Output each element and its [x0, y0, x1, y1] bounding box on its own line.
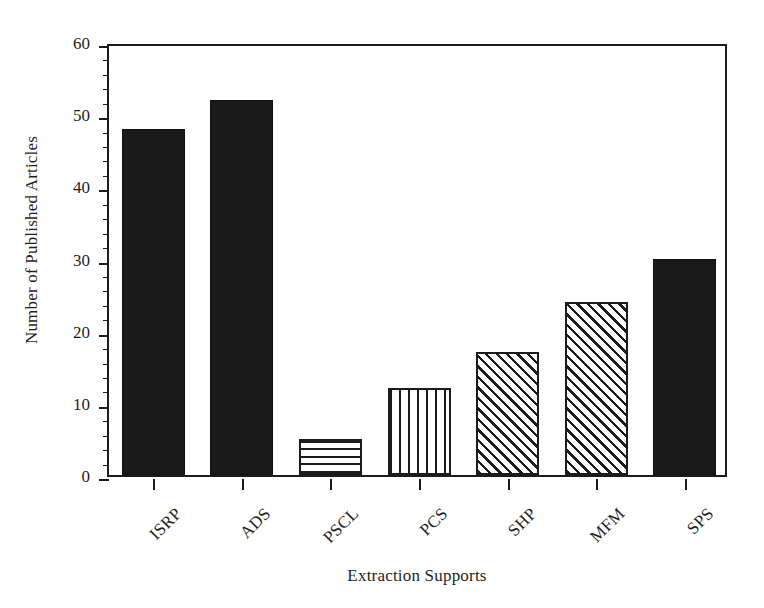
y-axis-title: Number of Published Articles [22, 80, 42, 400]
y-axis-minor-tick [103, 306, 109, 307]
bar-ads [210, 100, 273, 475]
y-axis-tick-labels: 0102030405060 [0, 0, 100, 608]
y-axis-tick-label: 60 [10, 34, 90, 54]
y-axis-tick-label: 0 [10, 467, 90, 487]
x-axis-tick [242, 479, 244, 490]
x-axis-tick [596, 479, 598, 490]
y-axis-minor-tick [103, 436, 109, 437]
y-axis-major-tick [99, 335, 109, 337]
y-axis-minor-tick [103, 349, 109, 350]
bar-shp [476, 352, 539, 475]
y-axis-minor-tick [103, 219, 109, 220]
y-axis-minor-tick [103, 89, 109, 90]
y-axis-minor-tick [103, 392, 109, 393]
x-axis-category-label-ads: ADS [176, 504, 275, 603]
x-axis-tick [419, 479, 421, 490]
bar-pcs [388, 388, 451, 475]
bar-sps [653, 259, 716, 476]
y-axis-minor-tick [103, 450, 109, 451]
x-axis-category-label-shp: SHP [442, 504, 541, 603]
y-axis-minor-tick [103, 176, 109, 177]
x-axis-tick [153, 479, 155, 490]
x-axis-category-label-pscl: PSCL [264, 504, 363, 603]
x-axis-category-label-mfm: MFM [530, 504, 629, 603]
x-axis-category-label-isrp: ISRP [87, 504, 186, 603]
plot-area [107, 44, 727, 477]
x-axis-tick [330, 479, 332, 490]
y-axis-minor-tick [103, 161, 109, 162]
y-axis-minor-tick [103, 291, 109, 292]
y-axis-major-tick [99, 407, 109, 409]
y-axis-minor-tick [103, 133, 109, 134]
y-axis-minor-tick [103, 465, 109, 466]
y-axis-minor-tick [103, 147, 109, 148]
bar-chart-figure: 0102030405060 Number of Published Articl… [0, 0, 764, 608]
y-axis-minor-tick [103, 75, 109, 76]
y-axis-minor-tick [103, 60, 109, 61]
x-axis-category-label-pcs: PCS [353, 504, 452, 603]
y-axis-minor-tick [103, 248, 109, 249]
x-axis-tick [685, 479, 687, 490]
y-axis-minor-tick [103, 320, 109, 321]
x-axis-tick [508, 479, 510, 490]
y-axis-minor-tick [103, 205, 109, 206]
y-axis-minor-tick [103, 234, 109, 235]
y-axis-minor-tick [103, 364, 109, 365]
x-axis-category-label-sps: SPS [619, 504, 718, 603]
y-axis-major-tick [99, 190, 109, 192]
y-axis-major-tick [99, 46, 109, 48]
y-axis-major-tick [99, 118, 109, 120]
y-axis-minor-tick [103, 104, 109, 105]
y-axis-major-tick [99, 263, 109, 265]
bar-isrp [122, 129, 185, 475]
y-axis-minor-tick [103, 378, 109, 379]
bar-mfm [565, 302, 628, 475]
bar-pscl [299, 439, 362, 475]
y-axis-minor-tick [103, 277, 109, 278]
y-axis-minor-tick [103, 421, 109, 422]
y-axis-major-tick [99, 479, 109, 481]
